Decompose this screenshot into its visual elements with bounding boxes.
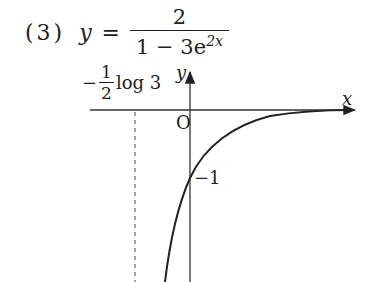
asymptote-sign: − — [82, 72, 97, 93]
asymptote-log: log 3 — [116, 72, 161, 93]
x-axis-label: x — [342, 88, 352, 109]
asymptote-fraction: 1 2 — [99, 62, 114, 103]
function-curve — [165, 110, 352, 282]
y-axis-label: y — [176, 62, 186, 83]
asymptote-frac-num: 1 — [101, 62, 112, 82]
origin-label: O — [176, 112, 191, 133]
function-graph — [0, 0, 370, 282]
asymptote-label: − 1 2 log 3 — [82, 62, 161, 103]
y-intercept-label: −1 — [194, 167, 221, 188]
asymptote-frac-den: 2 — [99, 82, 114, 103]
